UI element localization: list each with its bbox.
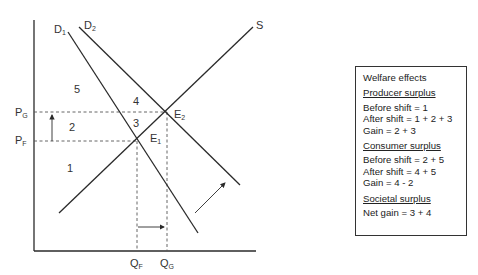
- area-2-label: 2: [69, 122, 75, 133]
- welfare-title: Welfare effects: [363, 72, 466, 83]
- qg-label: QG: [160, 258, 174, 272]
- consumer-line: Gain = 4 - 2: [363, 177, 466, 188]
- pg-label: PG: [15, 107, 28, 121]
- demand-curve-1: [68, 32, 198, 233]
- consumer-line: Before shift = 2 + 5: [363, 154, 466, 165]
- demand1-label: D1: [54, 24, 66, 38]
- pf-label: PF: [15, 135, 27, 149]
- producer-line: After shift = 1 + 2 + 3: [363, 113, 466, 124]
- consumer-line: After shift = 4 + 5: [363, 166, 466, 177]
- societal-surplus-heading: Societal surplus: [363, 193, 466, 204]
- area-1-label: 1: [67, 163, 73, 174]
- supply-label: S: [256, 20, 263, 31]
- supply-curve: [59, 27, 253, 213]
- area-3-label: 3: [133, 118, 139, 129]
- e1-label: E1: [150, 133, 161, 147]
- demand-shift-arrow-icon: [195, 183, 225, 213]
- e2-label: E2: [174, 109, 185, 123]
- qf-label: QF: [130, 258, 143, 272]
- producer-line: Before shift = 1: [363, 102, 466, 113]
- consumer-surplus-heading: Consumer surplus: [363, 140, 466, 151]
- demand-curve-2: [79, 27, 240, 185]
- producer-line: Gain = 2 + 3: [363, 125, 466, 136]
- demand2-label: D2: [84, 20, 96, 34]
- societal-line: Net gain = 3 + 4: [363, 207, 466, 218]
- area-5-label: 5: [74, 84, 80, 95]
- area-4-label: 4: [133, 96, 139, 107]
- dashed-guides: [34, 112, 167, 251]
- welfare-effects-box: Welfare effects Producer surplus Before …: [355, 66, 467, 236]
- producer-surplus-heading: Producer surplus: [363, 87, 466, 98]
